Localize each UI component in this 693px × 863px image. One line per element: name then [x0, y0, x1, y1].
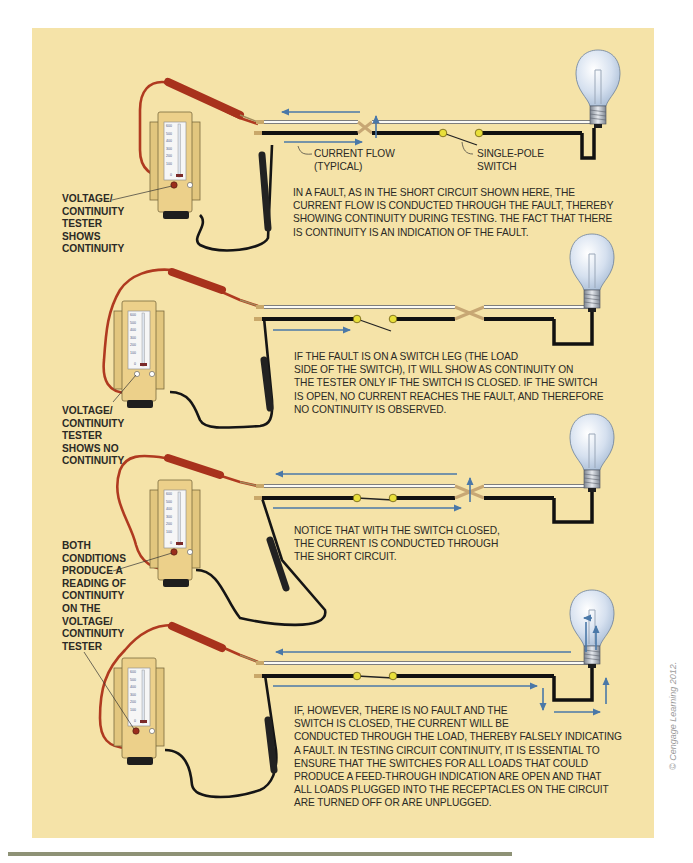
shared-continuity-label: BOTH CONDITIONS PRODUCE A READING OF CON… [62, 540, 126, 653]
description-panel-3: NOTICE THAT WITH THE SWITCH CLOSED, THE … [294, 524, 500, 564]
copyright-credit: © Cengage Learning 2012. [668, 662, 678, 770]
callout-single-pole-switch: SINGLE-POLE SWITCH [477, 148, 544, 173]
description-panel-2: IF THE FAULT IS ON A SWITCH LEG (THE LOA… [294, 350, 603, 416]
tester-label-shows-continuity: VOLTAGE/ CONTINUITY TESTER SHOWS CONTINU… [62, 193, 124, 256]
panel-3 [113, 414, 614, 625]
tester-label-shows-no-continuity: VOLTAGE/ CONTINUITY TESTER SHOWS NO CONT… [62, 405, 124, 468]
callout-current-flow: CURRENT FLOW (TYPICAL) [314, 148, 395, 173]
description-panel-1: IN A FAULT, AS IN THE SHORT CIRCUIT SHOW… [293, 186, 613, 239]
description-panel-4: IF, HOWEVER, THERE IS NO FAULT AND THE S… [294, 704, 622, 810]
